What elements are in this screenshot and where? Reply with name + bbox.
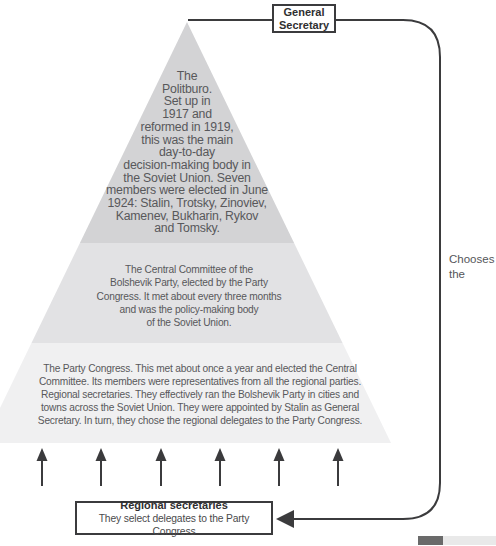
up-arrow-icon bbox=[333, 448, 344, 486]
up-arrow-icon bbox=[274, 448, 285, 486]
scrollbar-thumb[interactable] bbox=[418, 536, 443, 545]
chooses-the-label: Chooses the bbox=[449, 252, 495, 282]
up-arrow-icon bbox=[96, 448, 107, 486]
up-arrow-icon bbox=[156, 448, 167, 486]
general-secretary-label: General Secretary bbox=[279, 6, 329, 32]
left-arrowhead-icon bbox=[276, 510, 294, 528]
general-secretary-box: General Secretary bbox=[272, 4, 336, 33]
diagram-canvas: The Politburo. Set up in 1917 and reform… bbox=[0, 0, 496, 546]
scrollbar-track[interactable] bbox=[443, 536, 496, 545]
connector-lines bbox=[0, 0, 496, 546]
up-arrow-icon bbox=[37, 448, 48, 486]
regional-secretaries-subtitle: They select delegates to the Party Congr… bbox=[77, 512, 271, 538]
up-arrow-icon bbox=[215, 448, 226, 486]
regional-secretaries-title: Regional secretaries bbox=[120, 498, 228, 512]
chooses-connector-line bbox=[292, 20, 440, 519]
regional-secretaries-box: Regional secretaries They select delegat… bbox=[75, 501, 273, 535]
